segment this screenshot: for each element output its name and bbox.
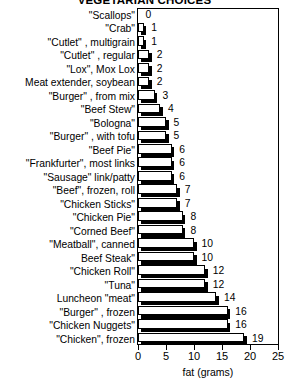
bar-face [138, 77, 149, 87]
bar-face [138, 63, 149, 73]
value-label: 10 [202, 237, 213, 251]
vegetarian-choices-bar-chart: VEGETARIAN CHOICES "Scallops"0"Crab"1"Cu… [0, 0, 289, 382]
value-label: 4 [168, 102, 174, 116]
bar-face [138, 265, 205, 275]
value-label: 6 [179, 143, 185, 157]
value-label: 7 [185, 183, 191, 197]
value-label: 2 [157, 75, 163, 89]
value-label: 16 [235, 318, 246, 332]
x-axis-title: fat (grams) [137, 366, 279, 378]
bar-face [138, 184, 177, 194]
value-label: 2 [157, 48, 163, 62]
value-label: 16 [235, 305, 246, 319]
chart-title: VEGETARIAN CHOICES [0, 0, 289, 6]
bar-face [138, 104, 160, 114]
value-label: 12 [213, 264, 224, 278]
x-tick-label: 20 [238, 350, 262, 362]
bar-face [138, 279, 205, 289]
category-label: "Chicken", frozen [56, 332, 135, 348]
bar-face [138, 117, 166, 127]
bar-face [138, 306, 228, 316]
bar-face [138, 198, 177, 208]
x-tick-label: 5 [154, 350, 178, 362]
bar-face [138, 292, 216, 302]
bar-face [138, 131, 166, 141]
bar-face [138, 319, 228, 329]
value-label: 1 [151, 35, 157, 49]
value-label: 0 [146, 8, 152, 22]
x-tick-label: 25 [266, 350, 289, 362]
value-label: 14 [224, 291, 235, 305]
x-tick-label: 15 [210, 350, 234, 362]
bar-face [138, 171, 172, 181]
bar-face [138, 50, 149, 60]
value-label: 6 [179, 156, 185, 170]
bar-face [138, 23, 144, 33]
value-label: 12 [213, 278, 224, 292]
bar-face [138, 144, 172, 154]
value-label: 3 [162, 89, 168, 103]
x-tick-label: 10 [182, 350, 206, 362]
value-label: 2 [157, 62, 163, 76]
bar-face [138, 333, 244, 343]
bar-face [138, 238, 194, 248]
bar-face [138, 157, 172, 167]
value-label: 19 [252, 332, 263, 346]
value-label: 5 [174, 129, 180, 143]
value-label: 5 [174, 116, 180, 130]
value-label: 7 [185, 197, 191, 211]
bar-face [138, 90, 155, 100]
bar-face [138, 36, 144, 46]
value-label: 1 [151, 21, 157, 35]
x-tick-label: 0 [126, 350, 150, 362]
value-label: 8 [190, 224, 196, 238]
bar-face [138, 211, 183, 221]
value-label: 10 [202, 251, 213, 265]
value-label: 6 [179, 170, 185, 184]
bar-face [138, 252, 194, 262]
value-label: 8 [190, 210, 196, 224]
bar-face [138, 225, 183, 235]
bar-rows: "Scallops"0"Crab"1"Cutlet" , multigrain1… [0, 8, 289, 345]
